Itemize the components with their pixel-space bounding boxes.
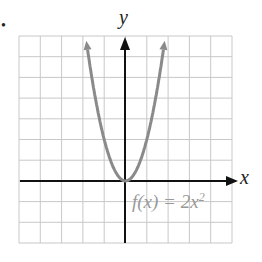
function-label-text: f(x) = 2x [132, 191, 199, 212]
bullet: • [1, 18, 6, 34]
curve-arrow-left-icon [84, 41, 92, 50]
y-axis-arrow-icon [120, 37, 130, 50]
function-label-exponent: 2 [199, 190, 205, 204]
x-axis-label: x [240, 166, 249, 189]
y-axis-label: y [119, 6, 128, 29]
curve-arrow-right-icon [159, 41, 167, 50]
graph-canvas [0, 0, 262, 262]
function-label: f(x) = 2x2 [132, 190, 205, 213]
